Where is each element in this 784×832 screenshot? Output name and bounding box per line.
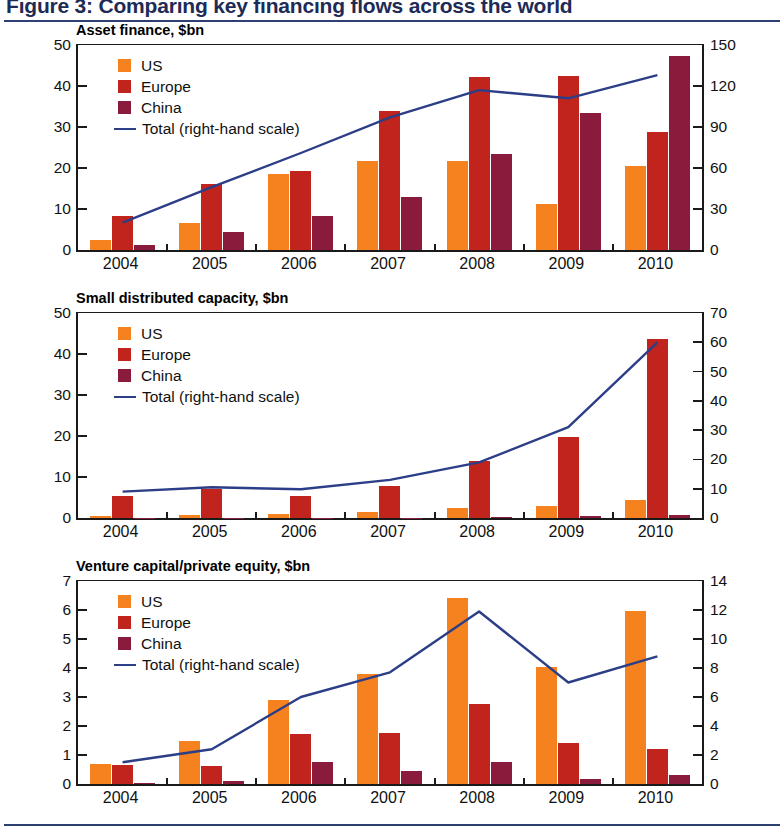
chart-panel-venture-capital: Venture capital/private equity, $bn 0123…: [0, 558, 784, 824]
y-axis-label-left: 3: [62, 689, 71, 705]
bar-europe: [647, 749, 668, 784]
x-axis-label: 2006: [281, 523, 317, 541]
bar-europe: [112, 765, 133, 784]
x-axis-label: 2007: [370, 789, 406, 807]
x-axis-label: 2008: [459, 255, 495, 273]
y-axis-label-left: 50: [54, 305, 71, 321]
bar-group: [435, 581, 524, 784]
x-axis-label: 2009: [548, 255, 584, 273]
x-axis-tick: [612, 512, 614, 519]
chart-panel-asset-finance: Asset finance, $bn 010203040500306090120…: [0, 22, 784, 290]
x-axis-tick: [166, 778, 168, 785]
y-axis-label-right: 40: [710, 393, 727, 409]
legend-label: Europe: [141, 614, 191, 632]
legend-item-china[interactable]: China: [118, 365, 300, 386]
bar-europe: [558, 76, 579, 250]
x-axis-tick: [523, 512, 525, 519]
legend-item-china[interactable]: China: [118, 97, 300, 118]
bar-china: [134, 245, 155, 250]
y-axis-label-right: 4: [710, 718, 719, 734]
x-axis-tick: [344, 244, 346, 251]
bar-group: [345, 45, 434, 250]
x-axis-tick: [255, 778, 257, 785]
bar-us: [179, 741, 200, 785]
x-axis-label: 2010: [638, 523, 674, 541]
x-axis-label: 2004: [103, 523, 139, 541]
y-axis-label-left: 7: [62, 573, 71, 589]
legend-label: Europe: [141, 78, 191, 96]
bar-china: [491, 517, 512, 518]
bar-us: [447, 161, 468, 250]
x-axis-tick: [612, 778, 614, 785]
legend-item-us[interactable]: US: [118, 323, 300, 344]
bar-china: [669, 775, 690, 784]
y-axis-label-right: 2: [710, 747, 719, 763]
legend-item-total[interactable]: Total (right-hand scale): [118, 654, 300, 675]
bar-europe: [469, 77, 490, 250]
y-axis-label-right: 6: [710, 689, 719, 705]
y-axis-label-left: 0: [62, 510, 71, 526]
y-axis-label-right: 30: [710, 422, 727, 438]
bar-group: [613, 45, 702, 250]
y-axis-label-left: 50: [54, 37, 71, 53]
y-axis-label-left: 1: [62, 747, 71, 763]
chart-title: Venture capital/private equity, $bn: [76, 558, 310, 574]
y-axis-label-right: 14: [710, 573, 727, 589]
bar-europe: [379, 486, 400, 518]
chart-panel-small-distributed-capacity: Small distributed capacity, $bn 01020304…: [0, 290, 784, 558]
legend-label: US: [141, 593, 163, 611]
y-axis-label-left: 5: [62, 631, 71, 647]
bar-us: [357, 674, 378, 784]
legend-item-europe[interactable]: Europe: [118, 76, 300, 97]
bar-china: [669, 515, 690, 518]
bar-us: [179, 515, 200, 518]
legend-line-swatch-icon: [114, 396, 136, 398]
y-axis-label-right: 30: [710, 201, 727, 217]
bar-europe: [558, 743, 579, 784]
bar-group: [435, 313, 524, 518]
x-axis-tick: [255, 512, 257, 519]
bar-us: [357, 161, 378, 250]
legend-label: Total (right-hand scale): [142, 656, 300, 674]
bar-china: [223, 781, 244, 784]
bar-europe: [558, 437, 579, 518]
plot-area: 01020304050010203040506070USEuropeChinaT…: [76, 312, 704, 520]
bar-europe: [647, 339, 668, 518]
x-axis-label: 2006: [281, 789, 317, 807]
legend-color-swatch-icon: [118, 327, 131, 340]
y-axis-label-left: 20: [54, 428, 71, 444]
chart-legend: USEuropeChinaTotal (right-hand scale): [118, 591, 300, 675]
y-axis-label-left: 0: [62, 776, 71, 792]
bar-europe: [469, 704, 490, 784]
x-axis-label: 2007: [370, 523, 406, 541]
legend-color-swatch-icon: [118, 595, 131, 608]
bar-group: [345, 313, 434, 518]
y-axis-label-right: 50: [710, 364, 727, 380]
bar-europe: [290, 496, 311, 518]
y-axis-label-left: 6: [62, 602, 71, 618]
legend-label: China: [141, 99, 182, 117]
x-axis-tick: [344, 778, 346, 785]
y-axis-label-left: 20: [54, 160, 71, 176]
bar-group: [345, 581, 434, 784]
legend-item-europe[interactable]: Europe: [118, 344, 300, 365]
legend-item-europe[interactable]: Europe: [118, 612, 300, 633]
y-axis-label-left: 40: [54, 78, 71, 94]
y-axis-label-right: 0: [710, 242, 719, 258]
bar-europe: [290, 734, 311, 784]
legend-item-china[interactable]: China: [118, 633, 300, 654]
legend-item-total[interactable]: Total (right-hand scale): [118, 386, 300, 407]
y-axis-label-left: 4: [62, 660, 71, 676]
legend-item-us[interactable]: US: [118, 591, 300, 612]
y-axis-label-right: 60: [710, 160, 727, 176]
y-axis-label-right: 10: [710, 631, 727, 647]
y-axis-label-left: 10: [54, 469, 71, 485]
x-axis-tick: [166, 512, 168, 519]
x-axis-label: 2004: [103, 255, 139, 273]
legend-item-total[interactable]: Total (right-hand scale): [118, 118, 300, 139]
bar-europe: [647, 132, 668, 250]
bar-china: [491, 154, 512, 250]
legend-color-swatch-icon: [118, 101, 131, 114]
legend-item-us[interactable]: US: [118, 55, 300, 76]
y-axis-label-right: 60: [710, 334, 727, 350]
